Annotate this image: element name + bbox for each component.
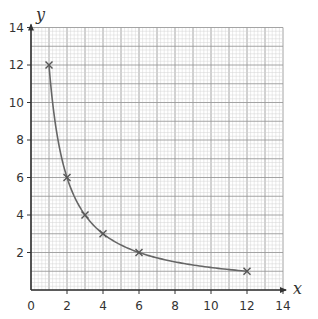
y-tick-label: 2	[16, 246, 24, 260]
y-axis-label: y	[35, 5, 46, 24]
x-tick-label: 4	[99, 299, 107, 313]
y-tick-label: 6	[16, 171, 24, 185]
data-markers	[46, 62, 251, 275]
x-axis-label: x	[293, 279, 302, 298]
y-tick-label: 4	[16, 208, 24, 222]
x-tick-label: 12	[239, 299, 254, 313]
data-curve	[49, 65, 247, 271]
x-tick-label: 6	[135, 299, 143, 313]
y-tick-label: 14	[9, 21, 24, 35]
x-tick-label: 8	[171, 299, 179, 313]
x-tick-label: 0	[27, 299, 35, 313]
x-tick-label: 10	[203, 299, 218, 313]
y-tick-label: 12	[9, 58, 24, 72]
x-tick-label: 14	[275, 299, 290, 313]
y-tick-label: 10	[9, 96, 24, 110]
grid	[31, 28, 283, 291]
y-tick-label: 8	[16, 133, 24, 147]
x-tick-label: 2	[63, 299, 71, 313]
chart-plot: 024681012142468101214 x y	[0, 0, 318, 319]
